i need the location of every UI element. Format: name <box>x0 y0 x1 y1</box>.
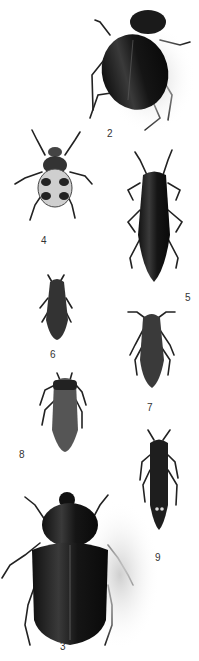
specimen-label-9: 9 <box>155 553 161 563</box>
specimen-label-4: 4 <box>41 236 47 246</box>
specimen-label-3: 3 <box>60 642 66 652</box>
specimen-label-6: 6 <box>50 350 56 360</box>
beetle-illustrations <box>0 0 199 661</box>
beetle-plate: 2 4 5 6 7 8 9 3 <box>0 0 199 661</box>
specimen-label-2: 2 <box>107 129 113 139</box>
specimen-label-5: 5 <box>185 293 191 303</box>
specimen-label-8: 8 <box>19 450 25 460</box>
specimen-label-7: 7 <box>147 403 153 413</box>
